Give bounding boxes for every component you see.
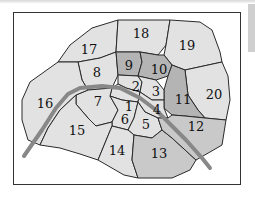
label-9: 9	[125, 58, 133, 73]
label-18: 18	[133, 26, 150, 41]
label-15: 15	[69, 123, 86, 138]
label-12: 12	[188, 119, 205, 134]
label-17: 17	[81, 42, 98, 57]
label-6: 6	[121, 112, 129, 127]
label-5: 5	[142, 117, 150, 132]
label-20: 20	[206, 87, 223, 102]
label-4: 4	[153, 102, 161, 117]
label-19: 19	[179, 38, 196, 53]
label-8: 8	[93, 65, 101, 80]
label-3: 3	[152, 84, 160, 99]
label-16: 16	[37, 96, 54, 111]
label-13: 13	[151, 146, 168, 161]
label-10: 10	[151, 62, 168, 77]
label-11: 11	[175, 92, 192, 107]
label-14: 14	[109, 143, 126, 158]
label-7: 7	[94, 94, 102, 109]
label-2: 2	[132, 79, 140, 94]
paris-map: 1 2 3 4 5 6 7 8 9 10 11 12 13 14 15 16 1…	[0, 0, 255, 198]
